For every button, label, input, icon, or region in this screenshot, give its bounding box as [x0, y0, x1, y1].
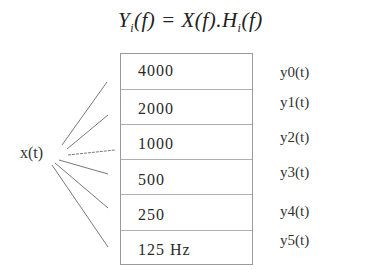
output-label-y1: y1(t): [280, 94, 309, 111]
band-label: 250: [138, 206, 165, 224]
band-label: 4000: [138, 62, 174, 80]
band-label: 2000: [138, 100, 174, 118]
filter-band-4000: 4000: [121, 54, 252, 89]
fan-line-4: [55, 163, 108, 208]
output-label-y2: y2(t): [280, 129, 309, 146]
fan-line-1: [67, 115, 108, 149]
output-label-y5: y5(t): [280, 232, 309, 249]
filter-band-250: 250: [121, 194, 252, 230]
filter-band-2000: 2000: [121, 89, 252, 124]
input-signal-label: x(t): [20, 144, 43, 162]
band-label: 500: [138, 171, 165, 189]
fan-line-3: [59, 160, 108, 174]
fan-line-0: [62, 82, 107, 145]
fan-line-2: [68, 150, 115, 155]
fan-line-5: [52, 165, 108, 247]
band-label: 125 Hz: [138, 241, 191, 259]
output-label-y3: y3(t): [280, 164, 309, 181]
band-label: 1000: [138, 135, 174, 153]
filter-band-500: 500: [121, 159, 252, 194]
output-label-y0: y0(t): [280, 64, 309, 81]
filter-band-1000: 1000: [121, 124, 252, 159]
filter-bank-box: 4000 2000 1000 500 250 125 Hz: [120, 53, 253, 265]
output-label-y4: y4(t): [280, 203, 309, 220]
filter-band-125: 125 Hz: [121, 230, 252, 265]
